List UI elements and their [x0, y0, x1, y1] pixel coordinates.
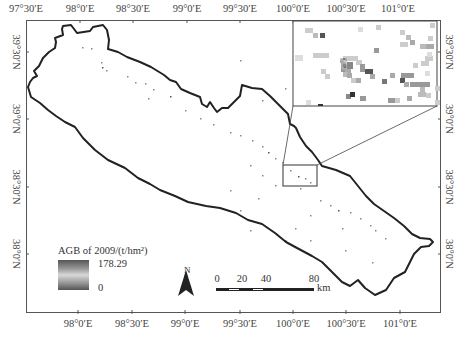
legend-color-ramp [58, 260, 89, 290]
scale-label-20: 20 [237, 273, 248, 284]
inset-panel [293, 21, 440, 106]
scale-label-0: 0 [214, 273, 219, 284]
map-canvas [0, 0, 460, 343]
legend-min-value: 0 [98, 282, 103, 293]
inset-connector-right [317, 106, 437, 165]
north-arrow-label: N [184, 265, 191, 275]
scale-segment-4 [252, 288, 264, 291]
legend-title: AGB of 2009/(t/hm²) [58, 245, 147, 256]
scale-segment-5 [264, 288, 314, 291]
scale-segment-3 [240, 288, 252, 291]
scale-segment-2 [228, 288, 240, 291]
scale-label-40: 40 [261, 273, 272, 284]
legend: AGB of 2009/(t/hm²) 178.29 0 [58, 245, 147, 256]
legend-max-value: 178.29 [98, 258, 127, 269]
scale-unit: km [317, 282, 330, 293]
scale-segment-1 [216, 288, 228, 291]
inset-extent-box [283, 165, 317, 186]
